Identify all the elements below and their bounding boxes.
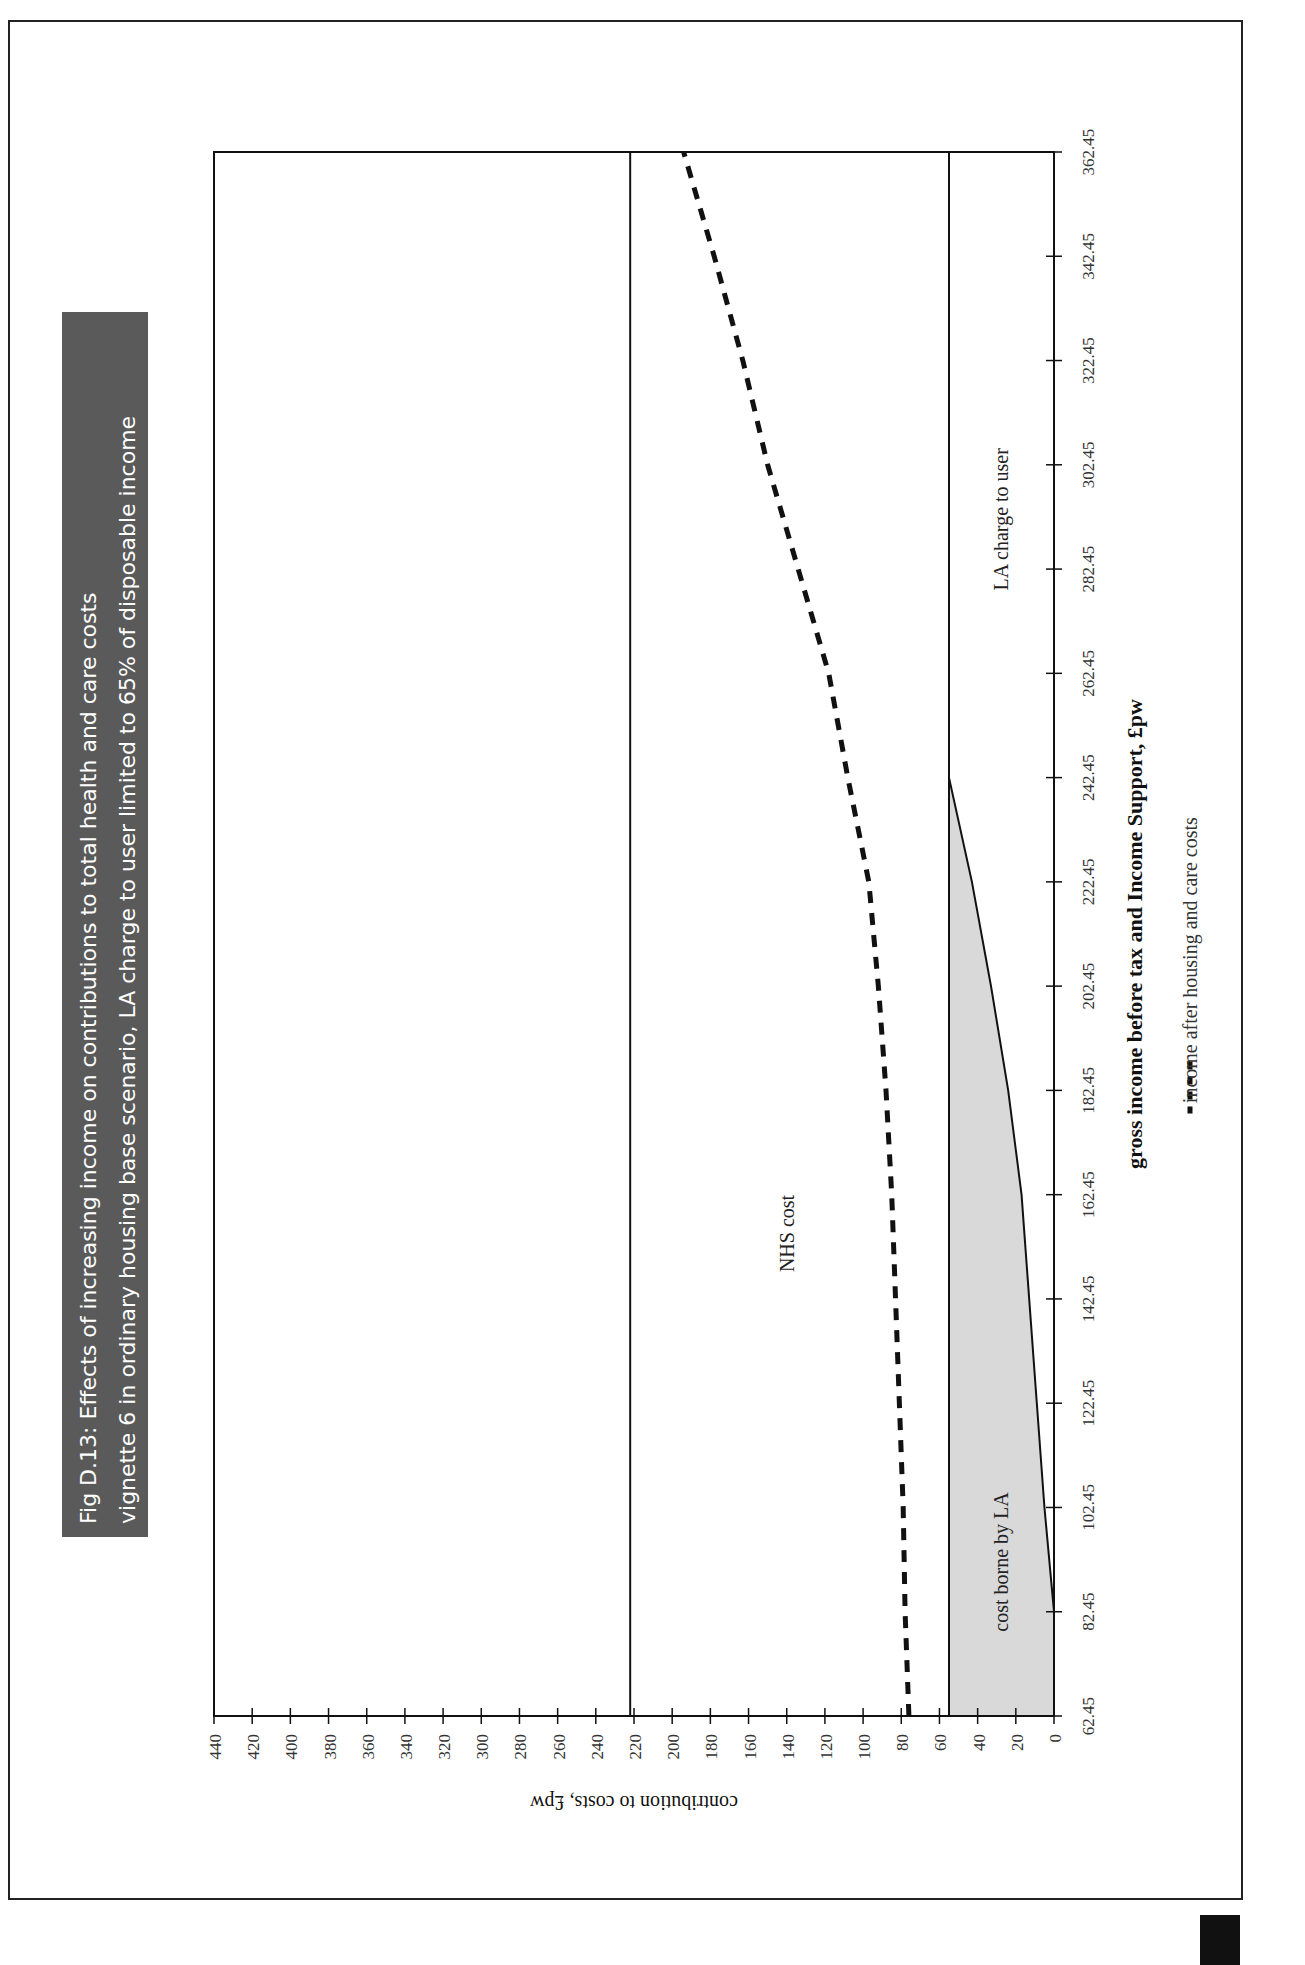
y-tick-label: 160 bbox=[741, 1734, 760, 1760]
y-tick-label: 260 bbox=[550, 1734, 569, 1760]
y-tick-label: 180 bbox=[702, 1734, 721, 1760]
y-tick-label: 100 bbox=[855, 1734, 874, 1760]
y-tick-label: 420 bbox=[244, 1734, 263, 1760]
y-tick-label: 320 bbox=[435, 1734, 454, 1760]
y-tick-label: 440 bbox=[206, 1734, 225, 1760]
x-tick-label: 82.45 bbox=[1079, 1593, 1098, 1631]
y-tick-label: 340 bbox=[397, 1734, 416, 1760]
x-tick-label: 282.45 bbox=[1079, 546, 1098, 593]
y-tick-label: 40 bbox=[970, 1734, 989, 1751]
chart: Fig D.13: Effects of increasing income o… bbox=[0, 0, 1305, 1965]
y-tick-label: 280 bbox=[511, 1734, 530, 1760]
y-axis-title: contribution to costs, £pw bbox=[530, 1791, 738, 1814]
x-tick-label: 322.45 bbox=[1079, 337, 1098, 384]
plot-frame bbox=[214, 152, 1054, 1716]
la-charge-label: LA charge to user bbox=[990, 448, 1013, 591]
y-tick-label: 60 bbox=[931, 1734, 950, 1751]
y-tick-label: 80 bbox=[893, 1734, 912, 1751]
x-tick-label: 242.45 bbox=[1079, 754, 1098, 801]
x-tick-label: 142.45 bbox=[1079, 1276, 1098, 1323]
x-axis-title: gross income before tax and Income Suppo… bbox=[1122, 699, 1147, 1169]
x-tick-label: 222.45 bbox=[1079, 858, 1098, 905]
x-tick-label: 342.45 bbox=[1079, 233, 1098, 280]
y-tick-label: 400 bbox=[282, 1734, 301, 1760]
x-tick-label: 122.45 bbox=[1079, 1380, 1098, 1427]
x-tick-label: 102.45 bbox=[1079, 1484, 1098, 1531]
y-tick-label: 0 bbox=[1046, 1734, 1065, 1743]
figure-title-line2: vignette 6 in ordinary housing base scen… bbox=[115, 416, 140, 1524]
y-tick-label: 240 bbox=[588, 1734, 607, 1760]
y-tick-label: 380 bbox=[321, 1734, 340, 1760]
x-tick-label: 202.45 bbox=[1079, 963, 1098, 1010]
figure-title: Fig D.13: Effects of increasing income o… bbox=[62, 312, 148, 1537]
y-tick-label: 200 bbox=[664, 1734, 683, 1760]
y-tick-label: 300 bbox=[473, 1734, 492, 1760]
plot-area: 0204060801001201401601802002202402602803… bbox=[206, 129, 1202, 1814]
x-tick-label: 182.45 bbox=[1079, 1067, 1098, 1114]
cost-borne-by-la-label: cost borne by LA bbox=[990, 1492, 1013, 1632]
y-tick-label: 20 bbox=[1008, 1734, 1027, 1751]
x-tick-label: 162.45 bbox=[1079, 1171, 1098, 1218]
legend-label: income after housing and care costs bbox=[1179, 817, 1202, 1103]
x-tick-label: 302.45 bbox=[1079, 441, 1098, 488]
income-dashed-line bbox=[684, 152, 909, 1716]
x-tick-label: 262.45 bbox=[1079, 650, 1098, 697]
y-tick-label: 140 bbox=[779, 1734, 798, 1760]
nhs-cost-label: NHS cost bbox=[776, 1194, 798, 1272]
x-tick-label: 362.45 bbox=[1079, 129, 1098, 176]
y-tick-label: 120 bbox=[817, 1734, 836, 1760]
x-tick-label: 62.45 bbox=[1079, 1697, 1098, 1735]
figure-title-line1: Fig D.13: Effects of increasing income o… bbox=[76, 592, 101, 1524]
y-tick-label: 360 bbox=[359, 1734, 378, 1760]
y-tick-label: 220 bbox=[626, 1734, 645, 1760]
cost-borne-by-la-area bbox=[949, 152, 1054, 1716]
